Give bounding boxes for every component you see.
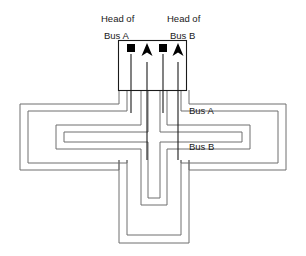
bus-b-head-square-icon: [159, 44, 167, 52]
bottom-arm-outer-loop: [119, 160, 189, 243]
rail-upper-right-a: [189, 90, 198, 104]
rail-inner-left-d: [108, 149, 141, 160]
bus-b-label: Bus B: [189, 141, 214, 152]
left-arm-inner-loop-2: [64, 132, 108, 142]
left-arm-middle-loop: [28, 111, 108, 163]
rail-lower-left-a: [108, 160, 119, 170]
left-arm-group: [20, 104, 108, 170]
bus-a-label: Bus A: [189, 105, 214, 116]
bottom-arm-group: [119, 160, 189, 243]
head-of-bus-b-label-line2: Bus B: [170, 30, 195, 41]
head-stems-group: [131, 54, 178, 160]
topology-canvas: Head of Bus A Head of Bus B Bus A Bus B: [0, 0, 306, 256]
cross-backbone-group: [108, 90, 198, 170]
head-of-bus-a-label-line1: Head of: [101, 13, 135, 24]
bus-a-head-square-icon: [127, 44, 135, 52]
rail-lower-left-b: [108, 160, 127, 163]
bus-a-up-arrow-icon: [142, 43, 153, 56]
bus-b-up-arrow-icon: [173, 43, 184, 56]
bottom-arm-inner-loop-2: [148, 160, 160, 198]
dqdb-topology-diagram: Head of Bus A Head of Bus B Bus A Bus B: [0, 0, 306, 256]
head-of-bus-b-label-line1: Head of: [167, 13, 201, 24]
rail-inner-left-c: [108, 142, 148, 160]
rail-lower-right-a: [189, 160, 198, 170]
head-of-bus-a-label-line2: Bus A: [104, 30, 129, 41]
rail-upper-left-b: [108, 90, 127, 111]
rail-upper-left-a: [108, 90, 119, 104]
right-arm-middle-loop: [198, 111, 278, 163]
rail-inner-left-a: [108, 90, 141, 125]
